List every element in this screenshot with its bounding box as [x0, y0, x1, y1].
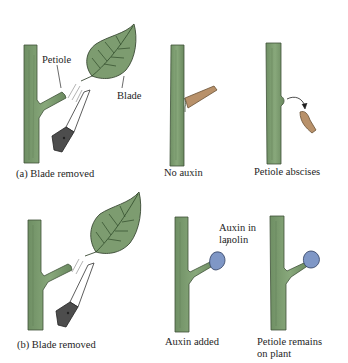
caption-no-auxin: No auxin [164, 167, 203, 179]
arrowhead-icon [302, 103, 307, 109]
leaf-blade-a [81, 24, 136, 81]
petiole-pointer [57, 65, 61, 88]
abscission-experiment-figure: Petiole Blade (a) Blade removed No auxin… [0, 0, 348, 363]
blade-pointer [122, 76, 124, 88]
caption-petiole-remains-line1: Petiole remains [257, 336, 322, 348]
stem-a2 [170, 45, 186, 166]
caption-a-blade-removed: (a) Blade removed [16, 168, 94, 180]
stem-b2 [175, 217, 216, 332]
caption-b-blade-removed: (b) Blade removed [17, 339, 96, 351]
caption-petiole-remains-line2: on plant [257, 348, 291, 360]
caption-auxin-added: Auxin added [165, 336, 219, 348]
petiole-label: Petiole [42, 54, 71, 66]
petiole-stub-no-auxin [185, 86, 217, 108]
leaf-blade-b [85, 192, 141, 256]
stem-b3 [270, 216, 309, 330]
auxin-label-line1: Auxin in [219, 222, 256, 234]
lanolin-auxin-blob [210, 252, 225, 270]
fallen-petiole [300, 111, 316, 133]
caption-petiole-abscises: Petiole abscises [254, 166, 320, 178]
blade-label: Blade [117, 90, 142, 102]
stem-a3 [266, 43, 284, 164]
lanolin-blob-remaining [303, 251, 319, 268]
auxin-label-line2: lanolin [219, 234, 248, 246]
